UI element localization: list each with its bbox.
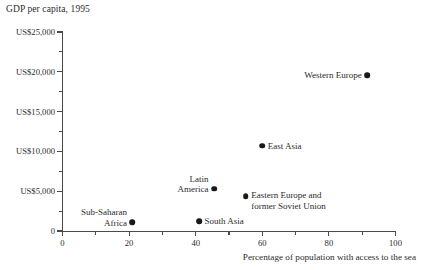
x-tick-label-60: 60: [258, 238, 267, 248]
x-tick-100: [395, 231, 396, 236]
x-tick-20: [129, 231, 130, 236]
x-tick-80: [328, 231, 329, 236]
y-tick-label-20000: US$20,000: [16, 67, 55, 77]
point-label-latin-america: Latin America: [178, 174, 209, 195]
y-tick-label-25000: US$25,000: [16, 27, 55, 37]
data-point-sub-saharan-africa[interactable]: [130, 219, 136, 225]
y-tick-22500: [59, 51, 63, 52]
x-tick-90: [362, 231, 363, 235]
y-tick-15000: [57, 111, 62, 112]
data-point-western-europe[interactable]: [364, 72, 370, 78]
point-label-western-europe: Western Europe: [304, 70, 362, 81]
point-label-south-asia: South Asia: [205, 216, 244, 227]
x-tick-label-20: 20: [125, 238, 134, 248]
point-label-sub-saharan-africa: Sub-Saharan Africa: [81, 207, 127, 228]
y-tick-5000: [57, 191, 62, 192]
data-point-latin-america[interactable]: [211, 186, 217, 192]
y-tick-2500: [59, 211, 63, 212]
x-tick-0: [62, 231, 63, 236]
x-tick-30: [162, 231, 163, 235]
y-tick-label-15000: US$15,000: [16, 107, 55, 117]
x-tick-40: [195, 231, 196, 236]
y-tick-label-0: 0: [51, 226, 55, 236]
x-tick-50: [228, 231, 229, 235]
point-label-east-asia: East Asia: [268, 141, 302, 152]
x-tick-10: [95, 231, 96, 235]
point-label-eastern-europe-and-former-soviet-union: Eastern Europe and former Soviet Union: [251, 190, 326, 211]
y-tick-10000: [57, 151, 62, 152]
y-tick-7500: [59, 171, 63, 172]
x-tick-label-100: 100: [389, 238, 402, 248]
x-tick-70: [295, 231, 296, 235]
y-tick-20000: [57, 71, 62, 72]
y-tick-label-10000: US$10,000: [16, 146, 55, 156]
x-tick-label-40: 40: [191, 238, 200, 248]
y-tick-17500: [59, 91, 63, 92]
scatter-chart: GDP per capita, 1995 0US$5,000US$10,000U…: [0, 0, 422, 270]
data-point-eastern-europe-and-former-soviet-union[interactable]: [243, 193, 249, 199]
data-point-south-asia[interactable]: [196, 218, 202, 224]
x-tick-label-80: 80: [325, 238, 334, 248]
y-tick-12500: [59, 131, 63, 132]
data-point-east-asia[interactable]: [260, 143, 266, 149]
y-tick-label-5000: US$5,000: [20, 186, 55, 196]
x-tick-60: [262, 231, 263, 236]
x-axis-title: Percentage of population with access to …: [243, 252, 416, 262]
x-tick-label-0: 0: [60, 238, 64, 248]
y-tick-25000: [57, 31, 62, 32]
chart-title: GDP per capita, 1995: [6, 4, 90, 14]
